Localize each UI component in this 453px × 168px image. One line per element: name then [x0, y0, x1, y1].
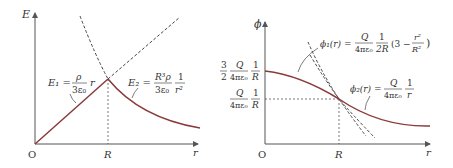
svg-text:1: 1 — [379, 32, 385, 42]
svg-text:ρ: ρ — [75, 72, 82, 82]
tick-r-label: R — [334, 149, 343, 160]
y-label: E — [21, 8, 30, 21]
e1-formula: E₁ = ρ 3ε₀ r — [47, 72, 96, 95]
phi2-dashed — [310, 55, 375, 138]
origin-label: O — [258, 149, 266, 160]
e1-dashed-line — [108, 17, 180, 79]
e2-formula: E₂ = R³ρ 3ε₀ 1 r² — [127, 72, 185, 95]
svg-text:Q: Q — [361, 32, 369, 42]
x-label: r — [193, 147, 199, 158]
svg-text:4πε₀: 4πε₀ — [384, 91, 402, 100]
origin-label: O — [28, 149, 36, 160]
svg-text:1: 1 — [407, 78, 413, 88]
svg-text:2: 2 — [221, 72, 227, 82]
svg-text:4πε₀: 4πε₀ — [230, 101, 248, 110]
svg-text:Q: Q — [236, 60, 244, 70]
y-label: ϕ — [254, 18, 262, 31]
svg-text:2R: 2R — [375, 44, 389, 54]
svg-text:E₁ =: E₁ = — [47, 77, 71, 88]
svg-text:3ε₀: 3ε₀ — [155, 85, 169, 95]
svg-text:Q: Q — [390, 78, 398, 88]
svg-text:3ε₀: 3ε₀ — [72, 85, 86, 95]
svg-text:r: r — [90, 77, 96, 88]
svg-text:ϕ₁(r) =: ϕ₁(r) = — [320, 39, 351, 49]
e2-curve — [108, 79, 200, 128]
svg-text:4πε₀: 4πε₀ — [355, 45, 373, 54]
svg-text:(3 −: (3 − — [391, 39, 411, 49]
x-label: r — [426, 147, 432, 158]
svg-text:1: 1 — [178, 72, 184, 82]
svg-text:1: 1 — [253, 60, 259, 70]
phi1-formula: ϕ₁(r) = Q 4πε₀ 1 2R (3 − r² R² ) — [320, 32, 430, 54]
e2-dashed-curve — [80, 16, 108, 79]
left-plot: E r O R E₁ = ρ 3ε₀ r E₂ = R³ρ 3ε₀ 1 r² — [21, 8, 200, 160]
svg-text:R³ρ: R³ρ — [154, 72, 171, 82]
phi2-formula: ϕ₂(r) = Q 4πε₀ 1 r — [350, 78, 414, 100]
svg-text:3: 3 — [221, 60, 227, 70]
svg-text:Q: Q — [236, 88, 244, 98]
y-tick-2: Q 4πε₀ 1 R — [230, 88, 260, 110]
svg-text:R: R — [251, 72, 259, 82]
svg-text:E₂ =: E₂ = — [127, 77, 151, 88]
svg-text:r²: r² — [414, 33, 421, 42]
svg-text:1: 1 — [253, 88, 259, 98]
y-tick-1: 3 2 Q 4πε₀ 1 R — [220, 60, 260, 82]
svg-text:ϕ₂(r) =: ϕ₂(r) = — [350, 84, 381, 94]
tick-r-label: R — [103, 149, 112, 160]
svg-text:R²: R² — [411, 45, 421, 54]
svg-text:4πε₀: 4πε₀ — [230, 73, 248, 82]
svg-text:): ) — [426, 37, 430, 50]
phi-curve — [265, 71, 430, 126]
svg-text:r: r — [407, 90, 412, 100]
svg-text:r²: r² — [175, 85, 183, 95]
svg-text:R: R — [251, 100, 259, 110]
right-plot: ϕ r O R 3 2 Q 4πε₀ 1 R Q 4πε₀ 1 R ϕ₁(r) … — [220, 18, 432, 160]
diagram: E r O R E₁ = ρ 3ε₀ r E₂ = R³ρ 3ε₀ 1 r² — [0, 0, 453, 168]
